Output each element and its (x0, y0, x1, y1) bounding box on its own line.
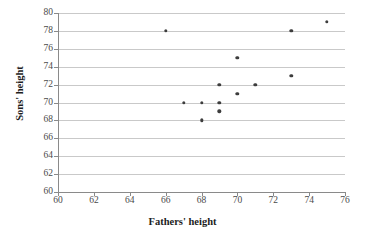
gridline-y-66 (58, 138, 345, 139)
data-point (218, 110, 221, 113)
y-tick-label-62: 62 (33, 169, 53, 179)
y-tick-label-74: 74 (33, 62, 53, 72)
x-tick-mark-70 (237, 192, 238, 196)
y-tick-mark-70 (54, 103, 58, 104)
scatter-plot-figure: 6062646668707274767880 60626466687072747… (0, 0, 365, 235)
gridline-y-74 (58, 67, 345, 68)
data-point (325, 20, 328, 23)
y-tick-mark-80 (54, 13, 58, 14)
data-point (236, 56, 239, 59)
x-tick-label-74: 74 (297, 196, 321, 206)
y-tick-label-72: 72 (33, 80, 53, 90)
x-tick-label-68: 68 (190, 196, 214, 206)
y-tick-label-80: 80 (33, 8, 53, 18)
y-tick-label-70: 70 (33, 98, 53, 108)
y-axis-title: Sons' height (14, 44, 25, 144)
x-tick-label-60: 60 (46, 196, 70, 206)
data-point (289, 29, 292, 32)
x-tick-mark-72 (273, 192, 274, 196)
y-tick-label-76: 76 (33, 44, 53, 54)
y-tick-label-66: 66 (33, 133, 53, 143)
data-point (164, 29, 167, 32)
x-tick-label-70: 70 (225, 196, 249, 206)
x-tick-mark-66 (166, 192, 167, 196)
x-tick-mark-60 (58, 192, 59, 196)
plot-area (58, 13, 345, 192)
data-point (218, 83, 221, 86)
data-point (200, 119, 203, 122)
gridline-y-62 (58, 174, 345, 175)
x-tick-mark-76 (345, 192, 346, 196)
data-point (218, 101, 221, 104)
x-tick-label-76: 76 (333, 196, 357, 206)
gridline-y-76 (58, 49, 345, 50)
gridline-y-78 (58, 31, 345, 32)
data-point (182, 101, 185, 104)
y-tick-label-68: 68 (33, 115, 53, 125)
gridline-y-72 (58, 85, 345, 86)
data-point (236, 92, 239, 95)
x-tick-mark-62 (94, 192, 95, 196)
gridline-y-80 (58, 13, 345, 14)
data-point (254, 83, 257, 86)
y-tick-mark-78 (54, 31, 58, 32)
y-tick-mark-74 (54, 67, 58, 68)
y-tick-mark-68 (54, 120, 58, 121)
x-tick-mark-64 (130, 192, 131, 196)
y-tick-mark-72 (54, 85, 58, 86)
y-tick-mark-64 (54, 156, 58, 157)
y-tick-label-78: 78 (33, 26, 53, 36)
x-tick-mark-74 (309, 192, 310, 196)
y-axis-line (58, 13, 59, 193)
data-point (289, 74, 292, 77)
x-tick-mark-68 (202, 192, 203, 196)
data-point (200, 101, 203, 104)
y-tick-mark-76 (54, 49, 58, 50)
y-tick-mark-62 (54, 174, 58, 175)
gridline-y-64 (58, 156, 345, 157)
x-tick-label-62: 62 (82, 196, 106, 206)
x-axis-title: Fathers' height (0, 216, 365, 227)
x-tick-label-66: 66 (154, 196, 178, 206)
y-tick-label-64: 64 (33, 151, 53, 161)
x-tick-label-64: 64 (118, 196, 142, 206)
y-tick-mark-66 (54, 138, 58, 139)
x-tick-label-72: 72 (261, 196, 285, 206)
